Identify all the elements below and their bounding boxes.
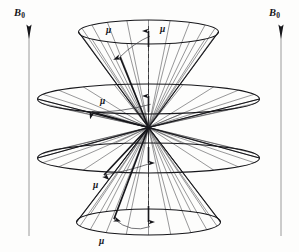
cone-generator-line	[127, 43, 149, 127]
right-field-symbol: B	[269, 7, 276, 18]
mu-label-cone-4-0: μ	[99, 237, 104, 247]
left-field-subscript: 0	[21, 11, 25, 20]
mu-label-cone-1-0: μ	[106, 26, 111, 36]
cone-generator-line	[149, 128, 207, 230]
mu-label-cone-2-0: μ	[100, 97, 105, 107]
mu-label-cone-3-0: μ	[93, 181, 98, 191]
cone-generator-line	[90, 128, 148, 230]
precession-arc-cone-4	[114, 219, 150, 229]
mu-vector-cone-1	[120, 57, 149, 128]
cone-generator-line	[106, 128, 148, 212]
precession-cone-figure: B0 B0 μμμμμ	[0, 0, 299, 252]
right-field-label: B0	[269, 8, 280, 19]
mu-label-cone-1-1: μ	[160, 25, 165, 35]
left-field-symbol: B	[14, 7, 21, 18]
left-field-label: B0	[14, 8, 25, 19]
cone-edge-right	[149, 99, 260, 128]
cone-generator-line	[149, 128, 191, 212]
cone-generator-line	[149, 43, 171, 127]
cone-edge-right	[149, 128, 221, 223]
precession-arc-cone-1	[120, 36, 150, 57]
figure-canvas	[0, 0, 299, 252]
cone-edge-left	[77, 128, 149, 223]
cones-layer	[38, 20, 260, 235]
right-field-subscript: 0	[276, 11, 280, 20]
